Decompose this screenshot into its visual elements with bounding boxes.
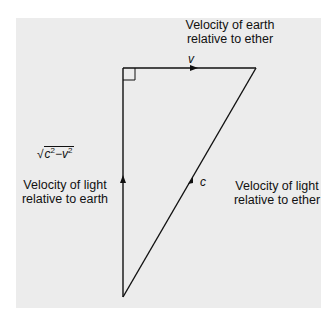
earth-velocity-label: Velocity of earth relative to ether [130, 18, 330, 46]
radicand: c2−v2 [44, 146, 74, 161]
label-line: Velocity of earth [130, 18, 330, 32]
light-relative-ether-label: Velocity of light relative to ether [216, 179, 336, 207]
label-line: Velocity of light [10, 178, 120, 192]
minus: − [55, 147, 62, 161]
label-line: relative to earth [10, 192, 120, 206]
c-symbol: c [200, 175, 206, 189]
light-relative-earth-label: Velocity of light relative to earth [10, 178, 120, 206]
exponent: 2 [68, 146, 72, 155]
v-symbol: v [188, 52, 194, 66]
radical-sign: √ [37, 147, 44, 161]
right-angle-marker [123, 68, 135, 80]
label-line: relative to ether [130, 32, 330, 46]
label-line: Velocity of light [216, 179, 336, 193]
velocity-triangle [0, 0, 336, 322]
arrow-up-icon [120, 175, 126, 183]
sqrt-expression: √c2−v2 [37, 146, 74, 161]
label-line: relative to ether [216, 193, 336, 207]
